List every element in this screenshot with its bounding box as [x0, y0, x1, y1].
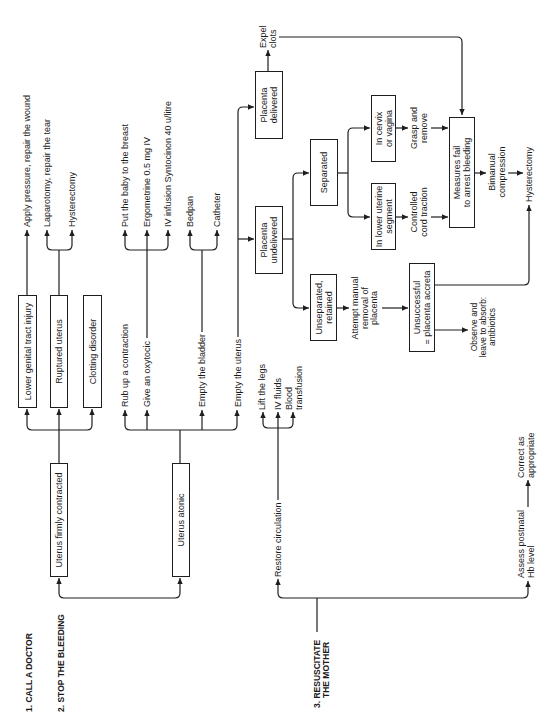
label-restore-circulation: Restore circulation	[273, 502, 283, 577]
arrow-to-lower-segment	[348, 173, 370, 217]
box-label: Placenta delivered	[259, 87, 279, 124]
label-ergometrine: Ergometrine 0.5 mg IV	[142, 137, 152, 227]
arrow-to-hysterectomy	[59, 230, 72, 250]
arrow-to-restore-circulation	[278, 579, 317, 598]
label-expel-clots: Expel clots	[259, 25, 278, 48]
box-placenta-delivered: Placenta delivered	[255, 71, 283, 139]
label-attempt-manual-removal: Attempt manual removal of placenta	[351, 275, 380, 341]
arrow-to-uterus-atonic	[120, 578, 180, 598]
label-iv-infusion-syntocinon: IV infusion Syntocinon 40 u/litre	[163, 101, 173, 227]
arrow-to-lift-legs	[263, 412, 278, 428]
arrow-to-placenta-delivered	[238, 107, 254, 337]
arrow-to-cervix	[348, 128, 370, 173]
label-iv-fluids: IV fluids	[273, 378, 283, 410]
box-uterus-atonic: Uterus atonic	[172, 463, 190, 577]
box-label: Lower genital tract injury	[23, 303, 33, 401]
label-controlled-cord-traction: Controlled cord traction	[410, 185, 429, 239]
box-clotting-disorder: Clotting disorder	[83, 295, 102, 408]
box-in-lower-uterine-segment: In lower uterine segment	[371, 183, 396, 250]
arrow-to-bedpan	[190, 230, 202, 250]
box-label: In cervix or vagina	[374, 110, 394, 147]
box-label: Unsuccessful = placenta accreta	[412, 271, 432, 345]
label-bedpan: Bedpan	[185, 196, 195, 227]
box-label: In lower uterine segment	[374, 186, 394, 248]
label-blood-transfusion: Blood transfusion	[285, 366, 304, 410]
box-label: Measures fail to arrest bleeding	[452, 138, 472, 208]
label-rub-up-contraction: Rub up a contraction	[120, 324, 130, 407]
box-lower-genital-tract-injury: Lower genital tract injury	[18, 295, 37, 408]
box-label: Placenta undelivered	[259, 217, 279, 264]
box-label: Clotting disorder	[88, 319, 98, 385]
arrow-to-blood-transfusion	[278, 412, 293, 428]
arrow-to-unseparated	[293, 239, 309, 308]
arrow-to-catheter	[202, 230, 217, 250]
heading-resuscitate-line2: THE MOTHER	[321, 642, 331, 698]
label-catheter: Catheter	[212, 192, 222, 227]
label-hysterectomy-ruptured: Hysterectomy	[67, 172, 77, 227]
label-bimanual-compression: Bimanual compression	[488, 143, 507, 201]
label-give-oxytocic: Give an oxytocic	[142, 341, 152, 407]
box-ruptured-uterus: Ruptured uterus	[50, 295, 68, 408]
arrow-to-empty-uterus	[180, 410, 237, 430]
box-uterus-firmly-contracted: Uterus firmly contracted	[50, 463, 68, 577]
arrow-to-clotting	[59, 409, 92, 430]
box-unseparated-retained: Unseparated, retained	[310, 274, 337, 341]
arrow-to-laparotomy	[47, 230, 59, 250]
box-placenta-undelivered: Placenta undelivered	[255, 206, 283, 274]
heading-stop-bleeding: 2. STOP THE BLEEDING	[56, 614, 66, 712]
label-empty-bladder: Empty the bladder	[197, 334, 207, 407]
postpartum-haemorrhage-flowchart: 1. CALL A DOCTOR 2. STOP THE BLEEDING 3.…	[0, 0, 546, 721]
arrow-to-lower-genital	[27, 409, 59, 430]
box-measures-fail: Measures fail to arrest bleeding	[449, 117, 475, 228]
box-label: Separated	[319, 152, 329, 194]
arrow-to-assess-hb	[317, 581, 528, 598]
arrow-to-firmly-contracted	[59, 578, 120, 598]
label-assess-postnatal-hb: Assess postnatal Hb level	[517, 510, 536, 578]
label-lift-legs: Lift the legs	[257, 364, 267, 410]
box-label: Uterus firmly contracted	[54, 472, 64, 567]
label-grasp-and-remove: Grasp and remove	[410, 105, 429, 151]
label-put-baby-to-breast: Put the baby to the breast	[120, 124, 130, 227]
heading-call-doctor: 1. CALL A DOCTOR	[24, 633, 34, 712]
label-hysterectomy-final: Hysterectomy	[524, 147, 534, 202]
box-label: Ruptured uterus	[54, 319, 64, 384]
box-unsuccessful-placenta-accreta: Unsuccessful = placenta accreta	[409, 263, 435, 352]
label-correct-as-appropriate: Correct as appropriate	[517, 432, 536, 478]
arrow-to-put-baby	[125, 230, 147, 250]
arrow-to-separated	[293, 173, 309, 239]
label-empty-uterus: Empty the uterus	[233, 339, 243, 407]
arrow-to-rub-up	[125, 410, 180, 430]
label-laparotomy: Laparotomy, repair the tear	[42, 119, 52, 227]
box-label: Unseparated, retained	[314, 280, 334, 334]
label-observe-absorb-antibiotics: Observe and leave to absorb: antibiotics	[470, 295, 497, 359]
label-apply-pressure: Apply pressure, repair the wound	[22, 95, 32, 227]
box-separated: Separated	[310, 139, 338, 206]
box-label: Uterus atonic	[176, 493, 186, 546]
box-in-cervix-or-vagina: In cervix or vagina	[371, 95, 396, 162]
arrow-to-iv-infusion	[147, 230, 168, 250]
